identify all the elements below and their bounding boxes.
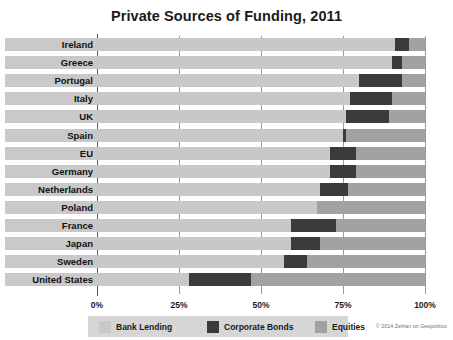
bar-segment bbox=[97, 56, 392, 69]
category-label-band: Sweden bbox=[5, 255, 97, 268]
bar-row bbox=[97, 183, 425, 196]
bar-row bbox=[97, 92, 425, 105]
bar-segment bbox=[97, 219, 291, 232]
category-label-band: France bbox=[5, 219, 97, 232]
legend-label: Bank Lending bbox=[116, 322, 172, 332]
legend-swatch bbox=[315, 321, 327, 333]
category-label: Spain bbox=[5, 129, 93, 142]
bar-segment bbox=[392, 92, 425, 105]
bar-row bbox=[97, 56, 425, 69]
category-label: Portugal bbox=[5, 74, 93, 87]
bar-segment bbox=[97, 92, 350, 105]
bar-segment bbox=[392, 56, 402, 69]
chart-container: Private Sources of Funding, 2011 Ireland… bbox=[0, 0, 453, 340]
bar-segment bbox=[97, 255, 284, 268]
bar-segment bbox=[409, 38, 425, 51]
bar-segment bbox=[320, 237, 425, 250]
bar-segment bbox=[348, 183, 425, 196]
x-tick-label: 75% bbox=[334, 300, 351, 310]
bar-segment bbox=[346, 129, 425, 142]
bar-segment bbox=[330, 147, 356, 160]
bar-segment bbox=[395, 38, 408, 51]
bar-segment bbox=[291, 237, 321, 250]
legend-label: Corporate Bonds bbox=[224, 322, 293, 332]
bar-segment bbox=[336, 219, 425, 232]
x-tick-label: 50% bbox=[252, 300, 269, 310]
bar-segment bbox=[97, 201, 317, 214]
x-tick-label: 25% bbox=[170, 300, 187, 310]
bar-segment bbox=[291, 219, 337, 232]
bar-segment bbox=[97, 165, 330, 178]
legend-swatch bbox=[99, 321, 111, 333]
bar-segment bbox=[402, 74, 425, 87]
category-label: Italy bbox=[5, 92, 93, 105]
legend-swatch bbox=[207, 321, 219, 333]
bar-segment bbox=[97, 237, 291, 250]
bar-segment bbox=[97, 147, 330, 160]
bar-segment bbox=[251, 273, 425, 286]
bar-segment bbox=[317, 201, 425, 214]
bar-row bbox=[97, 201, 425, 214]
category-label: Greece bbox=[5, 56, 93, 69]
category-label: France bbox=[5, 219, 93, 232]
category-label-band: Spain bbox=[5, 129, 97, 142]
bar-row bbox=[97, 273, 425, 286]
category-label-band: United States bbox=[5, 273, 97, 286]
bar-row bbox=[97, 38, 425, 51]
bar-segment bbox=[389, 110, 425, 123]
plot-area bbox=[97, 36, 425, 294]
bar-segment bbox=[350, 92, 393, 105]
bar-segment bbox=[402, 56, 425, 69]
bar-segment bbox=[97, 129, 343, 142]
category-label-band: Germany bbox=[5, 165, 97, 178]
category-label: UK bbox=[5, 110, 93, 123]
bar-segment bbox=[356, 147, 425, 160]
bar-row bbox=[97, 237, 425, 250]
category-label: United States bbox=[5, 273, 93, 286]
bar-segment bbox=[97, 183, 320, 196]
category-label: Germany bbox=[5, 165, 93, 178]
bar-segment bbox=[97, 74, 359, 87]
bar-segment bbox=[307, 255, 425, 268]
bar-segment bbox=[320, 183, 348, 196]
category-label-band: EU bbox=[5, 147, 97, 160]
bar-segment bbox=[356, 165, 425, 178]
bar-segment bbox=[359, 74, 402, 87]
bar-segment bbox=[189, 273, 251, 286]
bar-row bbox=[97, 147, 425, 160]
legend-label: Equities bbox=[332, 322, 365, 332]
bar-segment bbox=[97, 110, 346, 123]
bar-segment bbox=[330, 165, 356, 178]
category-label: EU bbox=[5, 147, 93, 160]
bar-row bbox=[97, 110, 425, 123]
copyright-credit: © 2014 Zeihan on Geopolitics bbox=[376, 323, 447, 329]
category-label-band: Poland bbox=[5, 201, 97, 214]
x-tick-label: 0% bbox=[91, 300, 103, 310]
chart-title: Private Sources of Funding, 2011 bbox=[0, 8, 453, 24]
gridline-100 bbox=[425, 36, 426, 294]
bar-segment bbox=[346, 110, 389, 123]
category-label-band: Italy bbox=[5, 92, 97, 105]
legend-item[interactable]: Bank Lending bbox=[99, 320, 172, 333]
legend-item[interactable]: Corporate Bonds bbox=[207, 320, 293, 333]
bar-row bbox=[97, 74, 425, 87]
category-label: Netherlands bbox=[5, 183, 93, 196]
bar-row bbox=[97, 129, 425, 142]
bar-row bbox=[97, 165, 425, 178]
category-label-band: Ireland bbox=[5, 38, 97, 51]
category-label: Ireland bbox=[5, 38, 93, 51]
bar-segment bbox=[284, 255, 307, 268]
category-label: Poland bbox=[5, 201, 93, 214]
bar-segment bbox=[97, 38, 395, 51]
legend-item[interactable]: Equities bbox=[315, 320, 365, 333]
category-label-band: Netherlands bbox=[5, 183, 97, 196]
category-label-band: UK bbox=[5, 110, 97, 123]
category-label-band: Greece bbox=[5, 56, 97, 69]
bar-segment bbox=[97, 273, 189, 286]
category-label-band: Japan bbox=[5, 237, 97, 250]
category-label: Sweden bbox=[5, 255, 93, 268]
bar-row bbox=[97, 255, 425, 268]
bar-row bbox=[97, 219, 425, 232]
x-tick-label: 100% bbox=[414, 300, 436, 310]
category-label: Japan bbox=[5, 237, 93, 250]
